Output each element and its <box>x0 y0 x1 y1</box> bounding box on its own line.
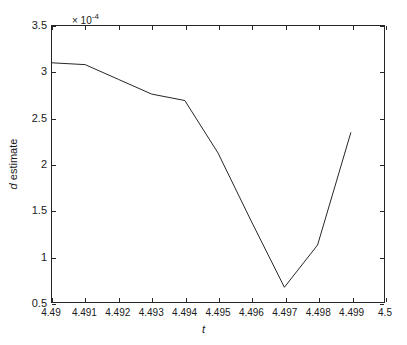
x-axis-tick-mark <box>152 26 153 30</box>
y-axis-title-text: estimate <box>7 139 19 184</box>
y-axis-tick-mark <box>380 304 384 305</box>
x-axis-tick-mark <box>219 298 220 302</box>
x-axis-tick-mark <box>319 26 320 30</box>
y-axis-tick-mark <box>380 211 384 212</box>
x-axis-tick-label: 4.493 <box>139 307 164 318</box>
x-axis-title: t <box>0 323 407 335</box>
x-axis-tick-mark <box>52 298 53 302</box>
x-axis-tick-label: 4.49 <box>41 307 60 318</box>
y-axis-title-wrap: d estimate <box>4 0 22 328</box>
x-axis-tick-label: 4.496 <box>239 307 264 318</box>
x-axis-tick-label: 4.492 <box>105 307 130 318</box>
x-axis-tick-label: 4.494 <box>172 307 197 318</box>
x-axis-tick-mark <box>85 26 86 30</box>
data-line-svg <box>52 26 384 302</box>
x-axis-tick-mark <box>186 26 187 30</box>
y-axis-tick-mark <box>52 258 56 259</box>
x-axis-tick-mark <box>85 298 86 302</box>
y-axis-tick-mark <box>52 304 56 305</box>
y-axis-tick-mark <box>52 165 56 166</box>
y-axis-tick-mark <box>52 119 56 120</box>
x-axis-tick-mark <box>119 298 120 302</box>
x-axis-tick-mark <box>219 26 220 30</box>
exponent-mantissa: × 10 <box>72 15 92 26</box>
x-axis-tick-label: 4.498 <box>306 307 331 318</box>
chart-figure: × 10-4 0.511.522.533.5 t d estimate 4.49… <box>0 0 407 345</box>
data-series-line <box>52 63 351 287</box>
x-axis-tick-mark <box>353 26 354 30</box>
x-axis-tick-label: 4.497 <box>272 307 297 318</box>
x-axis-tick-mark <box>186 298 187 302</box>
y-axis-tick-mark <box>380 165 384 166</box>
x-axis-tick-label: 4.499 <box>339 307 364 318</box>
x-axis-tick-label: 4.495 <box>205 307 230 318</box>
x-axis-tick-mark <box>252 298 253 302</box>
x-axis-tick-mark <box>252 26 253 30</box>
y-axis-title: d estimate <box>7 139 19 190</box>
x-axis-title-text: t <box>202 323 205 335</box>
x-axis-tick-mark <box>386 26 387 30</box>
x-axis-tick-mark <box>353 298 354 302</box>
y-axis-tick-mark <box>52 72 56 73</box>
y-axis-tick-mark <box>52 211 56 212</box>
exponent-power: -4 <box>92 12 99 21</box>
y-axis-tick-mark <box>380 119 384 120</box>
x-axis-tick-mark <box>319 298 320 302</box>
x-axis-tick-label: 4.491 <box>72 307 97 318</box>
x-axis-tick-mark <box>152 298 153 302</box>
y-axis-tick-mark <box>380 72 384 73</box>
x-axis-tick-mark <box>286 298 287 302</box>
y-axis-tick-mark <box>380 258 384 259</box>
y-axis-tick-mark <box>380 26 384 27</box>
x-axis-tick-label: 4.5 <box>378 307 392 318</box>
y-axis-title-symbol: d <box>7 183 19 189</box>
x-axis-tick-mark <box>52 26 53 30</box>
plot-area <box>51 25 385 303</box>
x-axis-tick-mark <box>386 298 387 302</box>
x-axis-tick-mark <box>286 26 287 30</box>
x-axis-tick-mark <box>119 26 120 30</box>
